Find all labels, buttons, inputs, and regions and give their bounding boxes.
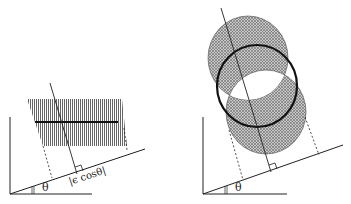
projection-dash-right <box>305 117 319 155</box>
right-panel: θ <box>203 8 343 194</box>
projection-dash-left <box>43 146 52 178</box>
theta-label: θ <box>235 181 242 194</box>
left-panel: θ |ϵ cosθ| <box>10 83 145 194</box>
angle-arc-mark <box>32 186 34 194</box>
theta-label: θ <box>42 181 49 194</box>
diagram-canvas: θ |ϵ cosθ| θ <box>0 0 351 204</box>
angle-arc-mark <box>225 186 227 194</box>
inclined-line <box>10 149 145 194</box>
